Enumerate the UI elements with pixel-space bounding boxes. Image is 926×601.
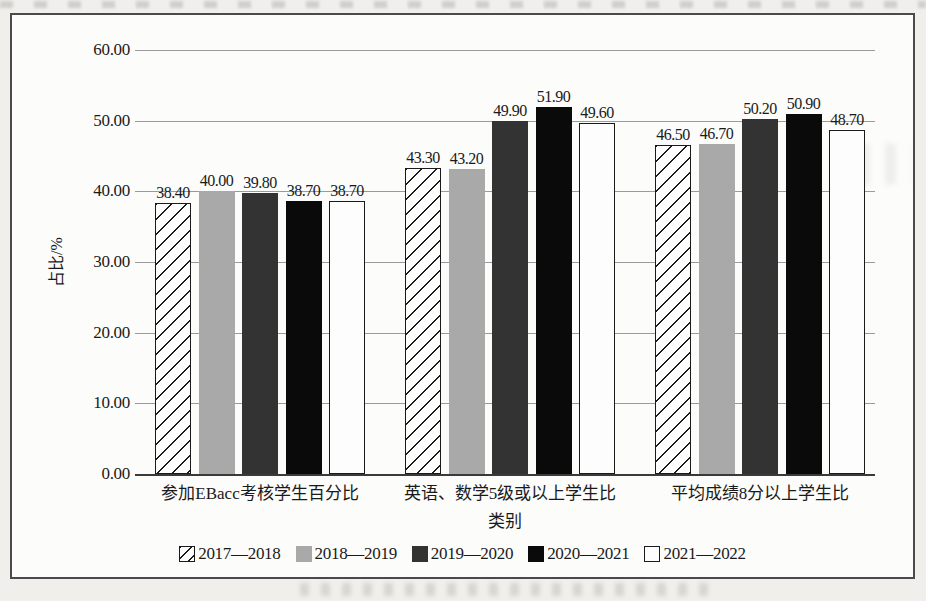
x-category-label-3: 平均成绩8分以上学生比	[635, 483, 885, 505]
bar-2021—2022-cat2	[579, 123, 615, 474]
x-category-label-2: 英语、数学5级或以上学生比	[385, 483, 635, 505]
scanned-page: 60.0050.0040.0030.0020.0010.000.00 占比/% …	[0, 0, 926, 601]
y-tick-label-60: 60.00	[68, 41, 130, 59]
bar-2018—2019-cat3	[699, 144, 735, 474]
value-label-2021—2022-cat1: 38.70	[321, 181, 373, 200]
legend-item-2018—2019: 2018—2019	[296, 544, 397, 564]
legend-item-2020—2021: 2020—2021	[528, 544, 629, 564]
y-tick-label-30: 30.00	[68, 253, 130, 271]
x-axis-line	[135, 474, 875, 476]
legend-item-2021—2022: 2021—2022	[644, 544, 745, 564]
legend-label-2021—2022: 2021—2022	[663, 544, 745, 564]
y-tick-label-20: 20.00	[68, 324, 130, 342]
legend: 2017—20182018—20192019—20202020—20212021…	[12, 543, 913, 565]
y-tick-label-10: 10.00	[68, 394, 130, 412]
legend-label-2019—2020: 2019—2020	[431, 544, 513, 564]
bar-2018—2019-cat1	[199, 191, 235, 474]
legend-swatch-2017—2018	[179, 546, 195, 562]
legend-swatch-2019—2020	[412, 546, 428, 562]
y-tick-label-50: 50.00	[68, 112, 130, 130]
x-category-label-1: 参加EBacc考核学生百分比	[135, 483, 385, 505]
legend-item-2019—2020: 2019—2020	[412, 544, 513, 564]
value-label-2021—2022-cat3: 48.70	[821, 110, 873, 129]
legend-label-2020—2021: 2020—2021	[547, 544, 629, 564]
legend-label-2017—2018: 2017—2018	[198, 544, 280, 564]
bar-2017—2018-cat3	[655, 145, 691, 474]
value-label-2021—2022-cat2: 49.60	[571, 103, 623, 122]
legend-item-2017—2018: 2017—2018	[179, 544, 280, 564]
value-label-2018—2019-cat2: 43.20	[441, 149, 493, 168]
bar-2020—2021-cat2	[536, 107, 572, 474]
y-axis-title: 占比/%	[47, 222, 67, 302]
bar-2021—2022-cat1	[329, 201, 365, 474]
bar-2017—2018-cat1	[155, 203, 191, 474]
y-tick-label-40: 40.00	[68, 182, 130, 200]
bar-2019—2020-cat1	[242, 193, 278, 474]
legend-label-2018—2019: 2018—2019	[315, 544, 397, 564]
chart-plot-area: 60.0050.0040.0030.0020.0010.000.00 占比/% …	[12, 15, 913, 577]
scan-artifact-top	[0, 1, 926, 8]
bar-2020—2021-cat1	[286, 201, 322, 474]
chart-frame: 60.0050.0040.0030.0020.0010.000.00 占比/% …	[10, 13, 915, 579]
bar-2019—2020-cat2	[492, 121, 528, 474]
value-label-2018—2019-cat3: 46.70	[691, 124, 743, 143]
bar-2021—2022-cat3	[829, 130, 865, 474]
legend-swatch-2021—2022	[644, 546, 660, 562]
legend-swatch-2018—2019	[296, 546, 312, 562]
x-axis-title: 类别	[465, 511, 545, 533]
bar-2017—2018-cat2	[405, 168, 441, 474]
bar-2018—2019-cat2	[449, 169, 485, 474]
y-tick-label-0: 0.00	[68, 465, 130, 483]
bar-2019—2020-cat3	[742, 119, 778, 474]
bar-2020—2021-cat3	[786, 114, 822, 474]
gridline-60	[135, 50, 875, 51]
scan-artifact-bottom-caption	[300, 583, 720, 596]
legend-swatch-2020—2021	[528, 546, 544, 562]
